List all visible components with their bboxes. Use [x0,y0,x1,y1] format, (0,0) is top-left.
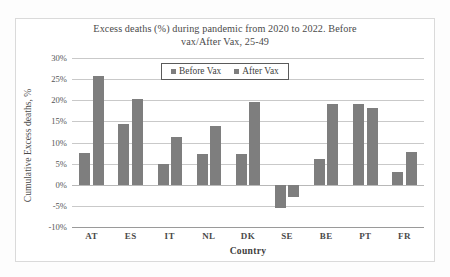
bar-SE-before-vax [275,185,286,208]
bar-SE-after-vax [288,185,299,197]
bar-ES-after-vax [132,99,143,185]
x-tick-label-IT: IT [165,231,175,241]
gridline-30% [72,58,424,59]
x-tick-label-AT: AT [85,231,98,241]
bar-AT-before-vax [79,153,90,185]
legend-label: After Vax [242,66,279,76]
x-tick-label-NL: NL [202,231,215,241]
legend-swatch-icon [234,69,239,74]
bar-PT-before-vax [353,104,364,185]
x-axis-line [72,227,424,228]
bar-AT-after-vax [93,76,104,185]
x-tick-label-ES: ES [125,231,137,241]
chart-figure: Excess deaths (%) during pandemic from 2… [0,0,450,277]
y-tick-label: 5% [56,159,67,169]
bar-DK-after-vax [249,102,260,185]
legend-entry-after-vax: After Vax [234,66,279,76]
chart-title: Excess deaths (%) during pandemic from 2… [40,22,410,48]
y-tick-label: 15% [51,116,67,126]
bar-FR-before-vax [392,172,403,185]
plot-area: 30%25%20%15%10%5%0%-5%-10% [72,58,424,227]
legend-label: Before Vax [179,66,221,76]
y-tick-label: 10% [51,138,67,148]
x-axis-title: Country [72,245,424,256]
y-tick-label: -5% [53,201,67,211]
x-tick-label-FR: FR [398,231,411,241]
y-axis-title: Cumulative Excess deaths, % [22,61,33,231]
legend-swatch-icon [171,69,176,74]
bar-IT-after-vax [171,137,182,185]
bar-DK-before-vax [236,154,247,185]
bar-PT-after-vax [367,108,378,185]
x-tick-label-SE: SE [281,231,293,241]
y-tick-label: 30% [51,53,67,63]
gridline--5% [72,206,424,207]
legend-entry-before-vax: Before Vax [171,66,221,76]
gridline-0% [72,185,424,186]
y-tick-label: 0% [56,180,67,190]
x-tick-label-DK: DK [241,231,255,241]
bar-ES-before-vax [118,124,129,184]
y-tick-label: 25% [51,74,67,84]
chart-legend: Before VaxAfter Vax [161,63,289,80]
bar-BE-after-vax [327,104,338,184]
bar-NL-before-vax [197,154,208,184]
bar-BE-before-vax [314,159,325,185]
bar-IT-before-vax [158,164,169,185]
x-tick-label-PT: PT [359,231,371,241]
bar-NL-after-vax [210,126,221,185]
y-tick-label: 20% [51,95,67,105]
chart-title-line-2: vax/After Vax, 25-49 [40,35,410,48]
x-tick-label-BE: BE [320,231,333,241]
gridline-20% [72,100,424,101]
chart-title-line-1: Excess deaths (%) during pandemic from 2… [40,22,410,35]
y-tick-label: -10% [48,222,67,232]
bar-FR-after-vax [406,152,417,185]
